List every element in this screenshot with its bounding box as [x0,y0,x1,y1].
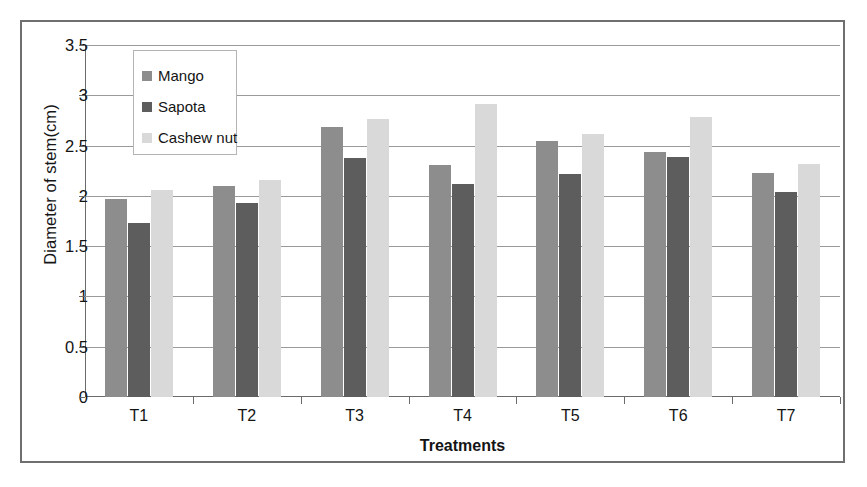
legend-swatch-icon [142,71,152,81]
legend-swatch-icon [142,102,152,112]
bar [798,164,820,397]
x-tick-mark [624,397,625,404]
bar [367,119,389,397]
bar [321,127,343,397]
y-tick-mark [79,347,85,348]
x-tick-label: T7 [777,407,796,425]
legend-swatch-icon [142,133,152,143]
bar [559,174,581,397]
y-tick-mark [79,95,85,96]
bar [429,165,451,397]
bar [128,223,150,397]
gridline [85,45,840,46]
x-tick-label: T2 [237,407,256,425]
y-tick-mark [79,397,85,398]
x-tick-mark [840,397,841,404]
y-tick-mark [79,45,85,46]
x-tick-mark [516,397,517,404]
bar [213,186,235,397]
bar [452,184,474,397]
x-tick-mark [732,397,733,404]
legend-item: Cashew nut [142,122,236,153]
legend-item: Mango [142,60,236,91]
legend-label: Sapota [158,98,206,115]
y-tick-label: 3 [18,86,88,105]
bar [475,104,497,397]
chart-figure: Diameter of stem(cm) 00.511.522.533.5 T1… [0,0,867,487]
y-tick-label: 0.5 [18,337,88,356]
x-tick-label: T3 [345,407,364,425]
y-tick-label: 1.5 [18,237,88,256]
bar [690,117,712,397]
bar [105,199,127,397]
y-tick-mark [79,246,85,247]
bar [644,152,666,397]
y-tick-label: 2 [18,186,88,205]
bar [344,158,366,397]
x-tick-label: T6 [669,407,688,425]
x-tick-mark [301,397,302,404]
x-tick-mark [193,397,194,404]
x-axis-title: Treatments [85,437,840,455]
bar [259,180,281,397]
bar [667,157,689,397]
y-tick-mark [79,296,85,297]
legend-label: Cashew nut [158,129,237,146]
x-tick-label: T1 [130,407,149,425]
y-axis-title: Diameter of stem(cm) [41,75,60,295]
bar [752,173,774,397]
y-tick-label: 1 [18,287,88,306]
y-tick-label: 0 [18,388,88,407]
bar [582,134,604,397]
x-tick-label: T5 [561,407,580,425]
legend-label: Mango [158,67,204,84]
x-tick-mark [409,397,410,404]
y-tick-label: 3.5 [18,36,88,55]
bar [536,141,558,397]
y-tick-label: 2.5 [18,136,88,155]
bar [151,190,173,397]
legend-item: Sapota [142,91,236,122]
bar [775,192,797,397]
bar [236,203,258,397]
y-tick-mark [79,196,85,197]
legend: MangoSapotaCashew nut [133,50,237,155]
x-tick-label: T4 [453,407,472,425]
y-tick-mark [79,146,85,147]
